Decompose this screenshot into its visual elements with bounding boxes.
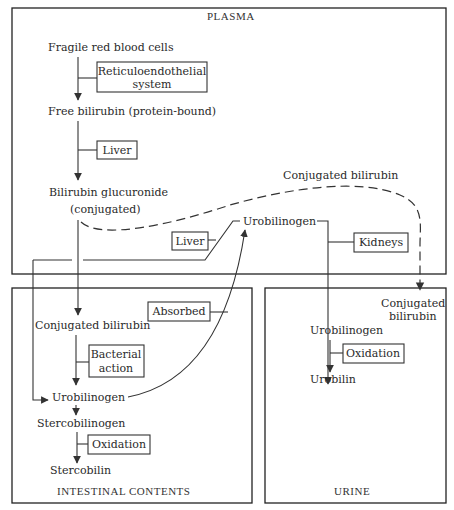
urine-urobilinogen-label: Urobilinogen <box>310 324 383 337</box>
conjugated-bilirubin-dashed-label: Conjugated bilirubin <box>283 169 398 182</box>
fragile-rbc-label: Fragile red blood cells <box>48 41 174 54</box>
oxidation-label-urine: Oxidation <box>346 347 400 360</box>
arrow-urobilinogen-to-urine <box>317 221 328 384</box>
bacterial-label-2: action <box>99 362 133 375</box>
kidneys-label: Kidneys <box>359 236 404 249</box>
urobilin-label: Urobilin <box>310 373 356 386</box>
bacterial-label-1: Bacterial <box>91 348 142 361</box>
intestinal-label: INTESTINAL CONTENTS <box>57 485 190 497</box>
stercobilinogen-label: Stercobilinogen <box>37 417 125 430</box>
urine-label: URINE <box>334 485 370 497</box>
urine-conjugated-label-1: Conjugated <box>381 297 445 310</box>
plasma-label: PLASMA <box>207 10 255 22</box>
oxidation-label-intestinal: Oxidation <box>92 438 146 451</box>
absorbed-label: Absorbed <box>151 305 205 318</box>
stercobilin-label: Stercobilin <box>50 464 111 477</box>
liver-label-1: Liver <box>103 144 133 157</box>
re-system-label-2: system <box>133 78 172 91</box>
bilirubin-glucuronide-label: Bilirubin glucuronide <box>49 186 168 199</box>
urine-conjugated-label-2: bilirubin <box>389 310 437 323</box>
bilirubin-metabolism-diagram: PLASMA INTESTINAL CONTENTS URINE Fragile… <box>0 0 454 510</box>
liver-label-2: Liver <box>176 235 206 248</box>
free-bilirubin-label: Free bilirubin (protein-bound) <box>48 105 216 118</box>
intestinal-conjugated-bilirubin-label: Conjugated bilirubin <box>35 319 150 332</box>
re-system-label-1: Reticuloendothelial <box>98 65 207 78</box>
conjugated-paren-label: (conjugated) <box>70 203 141 216</box>
intestinal-urobilinogen-label: Urobilinogen <box>52 391 125 404</box>
liver-return-path <box>83 221 240 260</box>
plasma-urobilinogen-label: Urobilinogen <box>243 215 316 228</box>
